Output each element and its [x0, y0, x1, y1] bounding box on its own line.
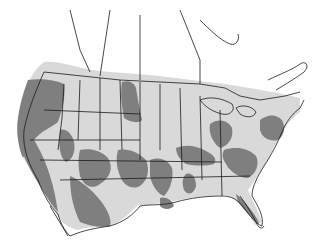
- map-svg: [0, 0, 330, 245]
- distribution-map: [0, 0, 330, 245]
